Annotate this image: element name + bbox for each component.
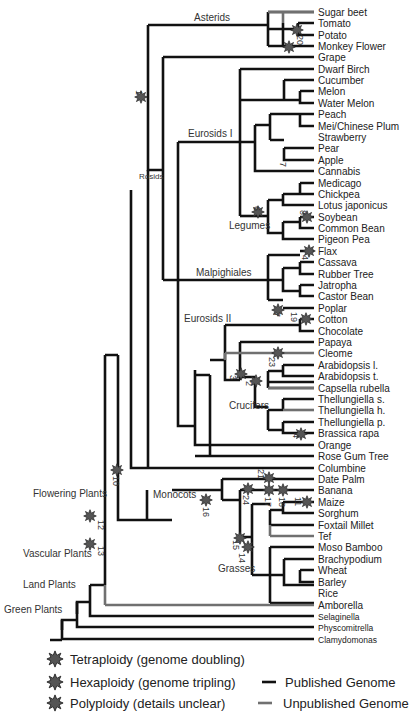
- star-icon-19: [300, 313, 313, 326]
- leaf-label: Capsella rubella: [318, 383, 390, 394]
- clade-asterids: Asterids: [194, 12, 230, 23]
- event-18: 18: [277, 497, 287, 507]
- leaf-label: Potato: [318, 30, 347, 41]
- event-10: 10: [111, 476, 121, 486]
- clade-land-plants: Land Plants: [23, 579, 76, 590]
- event-19: 19: [289, 312, 299, 322]
- event-3: 3: [228, 375, 238, 380]
- leaf-label: Poplar: [318, 303, 348, 314]
- leaf-label: Flax: [318, 246, 337, 257]
- leaf-label: Banana: [318, 485, 353, 496]
- legend-polyploidy: Polyploidy (details unclear): [70, 696, 225, 711]
- event-15: 15: [231, 540, 241, 550]
- leaf-label: Date Palm: [318, 474, 365, 485]
- leaf-label: Physcomitrella: [318, 623, 374, 633]
- star-icon-11: [84, 510, 97, 523]
- leaf-label: Sugar beet: [318, 7, 367, 18]
- leaf-label: Lotus japonicus: [318, 200, 388, 211]
- leaf-label: Monkey Flower: [318, 41, 386, 52]
- event-13: 11: [293, 497, 303, 506]
- event-8: 8: [298, 210, 308, 215]
- phylogenetic-tree: 1 20 7 6 8 4 7 19 3 2 23 4 10 16 24 21 1…: [0, 0, 416, 721]
- leaf-label: Pear: [318, 143, 340, 154]
- leaf-label: Apple: [318, 155, 344, 166]
- leaf-label: Castor Bean: [318, 291, 374, 302]
- leaf-label: Barley: [318, 577, 346, 588]
- leaf-label: Arabidopsis l.: [318, 360, 378, 371]
- event-17: 17: [263, 497, 273, 507]
- legend-tetraploidy: Tetraploidy (genome doubling): [70, 652, 245, 667]
- star-icon-14: [242, 541, 255, 554]
- leaf-label: Tomato: [318, 18, 351, 29]
- event-9: 6: [252, 206, 262, 211]
- event-4: 4: [291, 433, 301, 438]
- event-7b: 7: [272, 312, 282, 317]
- event-2: 2: [244, 381, 254, 386]
- leaf-label: Rice: [318, 588, 338, 599]
- leaf-label: Clamydomonas: [318, 635, 377, 645]
- event-21: 21: [256, 469, 266, 479]
- star-icon-17: [263, 484, 276, 497]
- leaf-label: Maize: [318, 497, 345, 508]
- leaf-label: Common Bean: [318, 223, 385, 234]
- leaf-label: Water Melon: [318, 98, 374, 109]
- clade-crucifers: Crucifers: [229, 400, 269, 411]
- event-11: 12: [96, 520, 106, 530]
- event-20: 20: [295, 35, 305, 45]
- leaf-label: Pigeon Pea: [318, 234, 370, 245]
- legend-hexaploidy: Hexaploidy (genome tripling): [70, 675, 235, 690]
- event-23: 23: [267, 357, 277, 367]
- clade-vascular-plants: Vascular Plants: [23, 548, 92, 559]
- leaf-label: Melon: [318, 86, 345, 97]
- tetraploidy-star-icon: [47, 651, 63, 667]
- leaf-label: Rose Gum Tree: [318, 451, 389, 462]
- star-icon-16: [200, 494, 213, 507]
- leaf-label: Dwarf Birch: [318, 64, 370, 75]
- event-12: 13: [96, 546, 106, 556]
- clade-rosids: Rosids: [139, 172, 163, 181]
- clade-legumes: Legumes: [229, 220, 270, 231]
- event-14: 14: [237, 553, 247, 563]
- leaf-label: Columbine: [318, 463, 366, 474]
- leaf-label: Mei/Chinese Plum: [318, 121, 399, 132]
- leaf-label: Brassica rapa: [318, 428, 380, 439]
- event-24: 24: [241, 495, 251, 505]
- polyploidy-star-icon: [47, 695, 63, 711]
- clade-grasses: Grasses: [218, 563, 255, 574]
- leaf-label: Cleome: [318, 348, 353, 359]
- leaf-label: Tef: [318, 531, 332, 542]
- leaf-label: Peach: [318, 109, 346, 120]
- clade-green-plants: Green Plants: [4, 604, 62, 615]
- leaf-label: Soybean: [318, 212, 357, 223]
- hexaploidy-star-icon: [47, 674, 63, 690]
- star-icon-7: [283, 41, 296, 54]
- clade-monocots: Monocots: [153, 489, 196, 500]
- star-icon-24: [242, 483, 255, 496]
- star-icon-10: [111, 464, 124, 477]
- clade-malpighiales: Malpighiales: [196, 267, 252, 278]
- clade-labels: Asterids Rosids Eurosids I Legumes Malpi…: [4, 12, 270, 615]
- legend: Tetraploidy (genome doubling) Hexaploidy…: [47, 651, 409, 711]
- clade-eurosids-i: Eurosids I: [188, 128, 232, 139]
- leaf-label: Medicago: [318, 178, 362, 189]
- leaf-label: Rubber Tree: [318, 269, 374, 280]
- leaf-label: Moso Bamboo: [318, 542, 383, 553]
- leaf-label: Amborella: [318, 600, 363, 611]
- leaf-label: Jatropha: [318, 280, 357, 291]
- event-1: 1: [134, 90, 144, 95]
- leaf-label: Strawberry: [318, 132, 366, 143]
- leaf-label: Thellungiella p.: [318, 417, 385, 428]
- star-icon-18: [277, 484, 290, 497]
- leaf-label: Chickpea: [318, 189, 360, 200]
- leaf-label: Chocolate: [318, 326, 363, 337]
- leaf-label: Thellungiella h.: [318, 405, 385, 416]
- leaf-label: Sorghum: [318, 508, 359, 519]
- leaf-label: Arabidopsis t.: [318, 371, 379, 382]
- event-16: 16: [201, 507, 211, 517]
- leaf-label: Cucumber: [318, 75, 365, 86]
- clade-flowering-plants: Flowering Plants: [33, 488, 107, 499]
- leaf-label: Orange: [318, 440, 352, 451]
- leaf-label: Foxtail Millet: [318, 520, 374, 531]
- event-7: 7: [278, 162, 288, 167]
- legend-published: Published Genome: [285, 675, 396, 690]
